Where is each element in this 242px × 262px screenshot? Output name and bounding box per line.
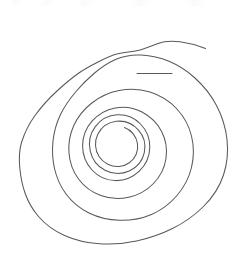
drawing-canvas (0, 0, 242, 262)
canvas-background (0, 0, 242, 262)
spiral-drawing-svg (0, 0, 242, 262)
